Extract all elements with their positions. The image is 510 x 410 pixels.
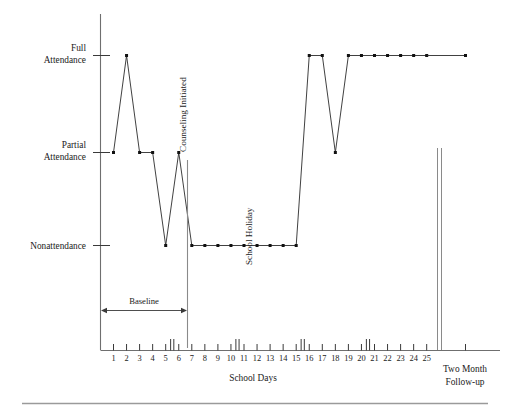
y-tick-group	[93, 56, 110, 246]
x-tick-label-day-12: 12	[253, 354, 261, 363]
annotation-school-holiday: School Holiday	[244, 207, 254, 265]
x-tick-label-day-7: 7	[190, 354, 194, 363]
figure-attendance-chart: Full Attendance Partial Attendance Nonat…	[0, 0, 510, 410]
y-label-partial-line2: Attendance	[44, 152, 86, 162]
y-label-full-line2: Attendance	[44, 55, 86, 65]
data-point-two-month-followup	[464, 54, 467, 57]
x-axis-title: School Days	[229, 373, 277, 383]
x-tick-label-day-5: 5	[164, 354, 168, 363]
data-point-day-14	[282, 244, 285, 247]
data-point-day-15	[295, 244, 298, 247]
x-tick-label-day-20: 20	[357, 354, 365, 363]
x-tick-label-day-14: 14	[279, 354, 288, 363]
chart-svg: Full Attendance Partial Attendance Nonat…	[0, 0, 510, 410]
data-point-day-5	[164, 244, 167, 247]
annotation-counseling-initiated: Counseling Initiated	[178, 77, 188, 348]
axis-break-marker	[438, 148, 442, 350]
x-tick-label-day-19: 19	[344, 354, 352, 363]
x-tick-label-day-13: 13	[266, 354, 274, 363]
x-tick-label-day-10: 10	[227, 354, 235, 363]
x-tick-label-day-3: 3	[138, 354, 142, 363]
data-point-day-4	[151, 151, 154, 154]
x-tick-label-day-21: 21	[370, 354, 378, 363]
data-point-day-3	[138, 151, 141, 154]
data-point-day-1	[112, 151, 115, 154]
baseline-arrow-head-left	[101, 308, 107, 313]
data-point-day-12	[256, 244, 259, 247]
data-point-day-18	[334, 151, 337, 154]
x-tick-label-day-16: 16	[305, 354, 313, 363]
series-attendance	[112, 54, 428, 247]
x-tick-label-group: 1234567891011121314151617181920212223242…	[111, 354, 430, 363]
x-tick-label-day-4: 4	[151, 354, 156, 363]
x-tick-label-day-25: 25	[423, 354, 431, 363]
data-point-day-13	[269, 244, 272, 247]
x-tick-label-day-2: 2	[124, 354, 128, 363]
y-axis-labels: Full Attendance Partial Attendance Nonat…	[30, 43, 86, 251]
x-tick-label-day-6: 6	[177, 354, 181, 363]
baseline-arrow-head-right	[181, 308, 187, 313]
baseline-label: Baseline	[129, 296, 159, 306]
data-point-day-19	[347, 54, 350, 57]
data-point-day-8	[203, 244, 206, 247]
data-point-day-7	[190, 244, 193, 247]
x-tick-group	[114, 344, 427, 351]
school-holiday-label: School Holiday	[244, 207, 254, 265]
data-point-day-17	[321, 54, 324, 57]
data-point-day-9	[216, 244, 219, 247]
data-point-day-16	[308, 54, 311, 57]
data-point-day-21	[373, 54, 376, 57]
data-point-day-10	[229, 244, 232, 247]
followup-label-line1: Two Month	[443, 364, 487, 374]
data-point-day-22	[386, 54, 389, 57]
data-point-day-23	[399, 54, 402, 57]
x-tick-label-day-15: 15	[292, 354, 300, 363]
y-label-nonattendance: Nonattendance	[30, 241, 86, 251]
data-point-day-2	[125, 54, 128, 57]
x-tick-label-day-23: 23	[396, 354, 404, 363]
counseling-initiated-label: Counseling Initiated	[178, 77, 188, 152]
x-tick-label-day-17: 17	[318, 354, 326, 363]
x-tick-label-day-9: 9	[216, 354, 220, 363]
data-point-day-20	[360, 54, 363, 57]
x-tick-label-day-1: 1	[111, 354, 115, 363]
x-tick-label-day-8: 8	[203, 354, 207, 363]
annotation-baseline: Baseline	[101, 296, 187, 313]
x-tick-label-day-24: 24	[409, 354, 418, 363]
data-point-day-24	[412, 54, 415, 57]
followup-label-line2: Follow-up	[445, 377, 484, 387]
x-tick-label-day-11: 11	[240, 354, 248, 363]
attendance-polyline	[114, 56, 427, 246]
y-label-partial-line1: Partial	[62, 140, 87, 150]
series-two-month-followup	[427, 54, 467, 57]
x-tick-label-day-22: 22	[383, 354, 391, 363]
y-label-full-line1: Full	[71, 43, 86, 53]
x-tick-label-day-18: 18	[331, 354, 339, 363]
